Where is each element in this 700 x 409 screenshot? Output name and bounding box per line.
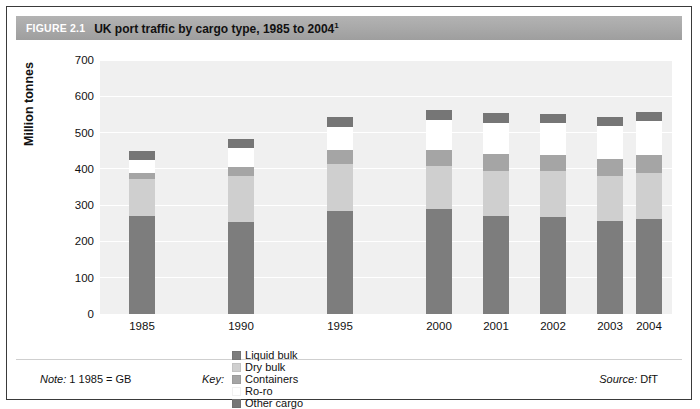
legend-label-liquid-bulk: Liquid bulk	[245, 349, 298, 361]
x-axis-tick-label: 1990	[228, 320, 254, 332]
x-axis-tick-label: 2001	[483, 320, 509, 332]
bar-segment-other-cargo[interactable]	[327, 117, 353, 127]
bar-segment-ro-ro[interactable]	[426, 120, 452, 149]
y-axis-tick-label: 400	[75, 163, 94, 175]
legend-label: Key:	[202, 373, 224, 385]
legend-swatch-dry-bulk	[232, 363, 241, 372]
legend-item-containers[interactable]: Containers	[232, 373, 303, 385]
legend-item-dry-bulk[interactable]: Dry bulk	[232, 361, 303, 373]
gridline	[100, 205, 672, 206]
gridline	[100, 60, 672, 61]
legend-label-containers: Containers	[245, 373, 298, 385]
x-axis-ticks: 19851990199520002001200220032004	[100, 320, 672, 338]
bar-segment-liquid-bulk[interactable]	[483, 216, 509, 314]
bar-segment-containers[interactable]	[540, 155, 566, 171]
bar-segment-dry-bulk[interactable]	[483, 171, 509, 216]
legend-items: Liquid bulkDry bulkContainersRo-roOther …	[232, 349, 314, 409]
bar-segment-dry-bulk[interactable]	[327, 164, 353, 210]
bar-segment-dry-bulk[interactable]	[426, 166, 452, 210]
y-axis-tick-label: 300	[75, 199, 94, 211]
bar-2004[interactable]	[636, 112, 662, 314]
gridline	[100, 168, 672, 169]
bar-segment-other-cargo[interactable]	[540, 114, 566, 123]
bar-segment-dry-bulk[interactable]	[597, 176, 623, 221]
x-axis-tick-label: 1985	[129, 320, 155, 332]
bar-segment-other-cargo[interactable]	[597, 117, 623, 126]
legend-swatch-other-cargo	[232, 399, 241, 408]
legend-item-ro-ro[interactable]: Ro-ro	[232, 385, 303, 397]
bar-2000[interactable]	[426, 110, 452, 314]
bar-segment-containers[interactable]	[228, 167, 254, 176]
bar-1985[interactable]	[129, 151, 155, 314]
bar-segment-ro-ro[interactable]	[540, 123, 566, 155]
legend: Key: Liquid bulkDry bulkContainersRo-roO…	[202, 349, 314, 409]
figure-footer: Note: 1 1985 = GB Key: Liquid bulkDry bu…	[16, 365, 682, 393]
legend-item-liquid-bulk[interactable]: Liquid bulk	[232, 349, 303, 361]
bar-segment-containers[interactable]	[597, 159, 623, 176]
bar-segment-other-cargo[interactable]	[636, 112, 662, 121]
note: Note: 1 1985 = GB	[40, 373, 131, 385]
y-axis-tick-label: 600	[75, 90, 94, 102]
x-axis-tick-label: 2003	[597, 320, 623, 332]
bar-1995[interactable]	[327, 117, 353, 314]
bar-segment-other-cargo[interactable]	[483, 113, 509, 123]
gridline	[100, 96, 672, 97]
bar-segment-ro-ro[interactable]	[129, 160, 155, 172]
legend-label-ro-ro: Ro-ro	[245, 385, 273, 397]
x-axis-tick-label: 2002	[540, 320, 566, 332]
bar-segment-liquid-bulk[interactable]	[129, 216, 155, 314]
bar-segment-dry-bulk[interactable]	[540, 171, 566, 217]
figure-container: FIGURE 2.1 UK port traffic by cargo type…	[6, 6, 692, 400]
plot-canvas	[100, 60, 672, 314]
bar-segment-other-cargo[interactable]	[228, 139, 254, 148]
legend-label-other-cargo: Other cargo	[245, 397, 303, 409]
bar-segment-ro-ro[interactable]	[636, 121, 662, 155]
bar-2002[interactable]	[540, 114, 566, 314]
y-axis-tick-label: 500	[75, 127, 94, 139]
figure-title: UK port traffic by cargo type, 1985 to 2…	[94, 21, 339, 36]
gridline	[100, 132, 672, 133]
bar-segment-dry-bulk[interactable]	[636, 173, 662, 219]
bar-segment-liquid-bulk[interactable]	[597, 221, 623, 314]
figure-title-text: UK port traffic by cargo type, 1985 to 2…	[94, 22, 334, 36]
x-axis-tick-label: 2000	[426, 320, 452, 332]
note-label: Note:	[40, 373, 66, 385]
y-axis-tick-label: 200	[75, 235, 94, 247]
gridline	[100, 277, 672, 278]
bar-segment-ro-ro[interactable]	[228, 148, 254, 167]
legend-item-other-cargo[interactable]: Other cargo	[232, 397, 303, 409]
source-text: DfT	[640, 373, 658, 385]
bar-segment-liquid-bulk[interactable]	[636, 219, 662, 314]
bar-segment-ro-ro[interactable]	[597, 126, 623, 159]
bar-1990[interactable]	[228, 139, 254, 314]
bar-segment-ro-ro[interactable]	[483, 123, 509, 155]
x-axis-tick-label: 1995	[327, 320, 353, 332]
bar-segment-dry-bulk[interactable]	[228, 176, 254, 222]
figure-header: FIGURE 2.1 UK port traffic by cargo type…	[16, 16, 682, 40]
bar-2001[interactable]	[483, 113, 509, 314]
bar-segment-liquid-bulk[interactable]	[327, 211, 353, 314]
bar-2003[interactable]	[597, 117, 623, 314]
source: Source: DfT	[599, 373, 658, 385]
bar-segment-containers[interactable]	[426, 150, 452, 166]
bar-segment-containers[interactable]	[483, 154, 509, 171]
gridline	[100, 241, 672, 242]
legend-label-dry-bulk: Dry bulk	[245, 361, 285, 373]
bar-segment-liquid-bulk[interactable]	[228, 222, 254, 314]
footer-divider	[16, 359, 682, 360]
bar-segment-containers[interactable]	[636, 155, 662, 173]
figure-title-footnote-marker: 1	[334, 21, 338, 30]
bar-segment-liquid-bulk[interactable]	[426, 209, 452, 314]
chart-area: Million tonnes 0100200300400500600700 19…	[16, 48, 682, 353]
y-axis-tick-label: 0	[88, 308, 94, 320]
bar-segment-other-cargo[interactable]	[426, 110, 452, 120]
y-axis-tick-label: 100	[75, 272, 94, 284]
bar-segment-containers[interactable]	[327, 150, 353, 164]
bar-segment-dry-bulk[interactable]	[129, 179, 155, 216]
bar-segment-liquid-bulk[interactable]	[540, 217, 566, 314]
bar-segment-other-cargo[interactable]	[129, 151, 155, 160]
note-text: 1 1985 = GB	[69, 373, 131, 385]
gridline	[100, 314, 672, 315]
bar-segment-ro-ro[interactable]	[327, 127, 353, 150]
legend-swatch-ro-ro	[232, 387, 241, 396]
